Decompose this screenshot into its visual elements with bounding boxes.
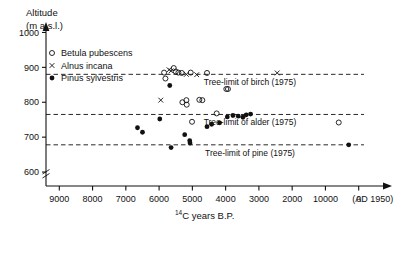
x-tick-label: 2000 — [282, 194, 302, 204]
data-point-filled-circle — [205, 124, 210, 129]
data-point-open-circle — [200, 98, 205, 103]
data-point-filled-circle — [182, 132, 187, 137]
data-point-open-circle — [190, 119, 195, 124]
data-point-filled-circle — [157, 117, 162, 122]
x-axis-title: 14C years B.P. — [175, 209, 234, 221]
data-point-filled-circle — [236, 114, 241, 119]
data-point-open-circle — [336, 120, 341, 125]
tree-limit-scatter-chart: 6007008009001000900080007000600050004000… — [0, 0, 414, 258]
x-tick-label: 4000 — [216, 194, 236, 204]
data-point-open-circle — [162, 70, 167, 75]
y-tick-label: 900 — [24, 63, 39, 73]
data-point-filled-circle — [225, 115, 230, 120]
data-point-filled-circle — [231, 113, 236, 118]
y-tick-label: 600 — [24, 167, 39, 177]
legend-marker-filled-circle — [50, 76, 55, 81]
x-tick-label: 8000 — [83, 194, 103, 204]
data-point-filled-circle — [140, 130, 145, 135]
data-point-filled-circle — [209, 122, 214, 127]
data-point-filled-circle — [244, 112, 249, 117]
data-point-filled-circle — [135, 125, 140, 130]
data-point-filled-circle — [188, 141, 193, 146]
legend-label: Pinus sylvestris — [61, 73, 124, 83]
y-axis-title-line1: Altitude — [26, 7, 58, 18]
x-axis-end-label: (AD 1950) — [352, 194, 393, 204]
legend-label: Alnus incana — [61, 61, 113, 71]
legend-label: Betula pubescens — [61, 48, 133, 58]
x-tick-label: 10000 — [313, 194, 338, 204]
data-point-open-circle — [163, 76, 168, 81]
x-tick-label: 3000 — [249, 194, 269, 204]
legend-marker-open-circle — [50, 51, 55, 56]
reference-line-label-pine: Tree-limit of pine (1975) — [205, 148, 295, 158]
y-tick-label: 800 — [24, 97, 39, 107]
x-tick-label: 9000 — [49, 194, 69, 204]
data-point-open-circle — [214, 111, 219, 116]
x-tick-label: 5000 — [182, 194, 202, 204]
x-tick-label: 7000 — [116, 194, 136, 204]
x-tick-label: 6000 — [149, 194, 169, 204]
data-point-filled-circle — [169, 145, 174, 150]
reference-line-label-birch: Tree-limit of birch (1975) — [204, 77, 296, 87]
x-axis-arrow — [383, 183, 392, 190]
data-point-filled-circle — [167, 83, 172, 88]
data-point-filled-circle — [346, 142, 351, 147]
data-point-filled-circle — [217, 120, 222, 125]
y-tick-label: 700 — [24, 132, 39, 142]
y-axis-title-line2: (m a.s.l.) — [26, 20, 63, 31]
data-point-filled-circle — [248, 112, 253, 117]
